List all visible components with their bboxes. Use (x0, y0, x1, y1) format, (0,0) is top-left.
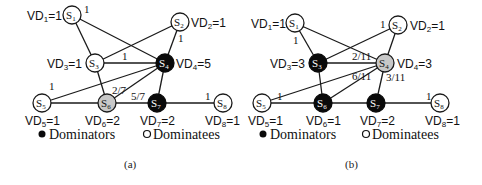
vd-label-s2: VD2=1 (410, 19, 445, 34)
weight-s1-s3: 1 (293, 34, 299, 46)
vd-label-s3: VD3=3 (270, 57, 305, 72)
weight-s4-s7: 3/11 (386, 71, 405, 83)
vd-label-s3: VD3=1 (47, 57, 82, 72)
node-s6-a: S6 (98, 94, 116, 112)
vd-label-s2: VD2=1 (191, 16, 226, 31)
weight-s2-s3: 1 (380, 18, 386, 30)
weight-s7-s8: 1 (205, 90, 211, 102)
legend-b: Dominators Dominatees (260, 127, 439, 142)
caption-a: (a) (124, 158, 137, 171)
legend-dominatees: Dominatees (372, 127, 439, 142)
node-s2-b: S2 (389, 16, 407, 34)
node-s4-b: S4 (376, 54, 394, 72)
weight-s4-s5: 6/11 (352, 70, 371, 82)
legend-dominators: Dominators (49, 127, 115, 142)
node-s5-a: S5 (33, 94, 51, 112)
dominatee-legend-icon (363, 131, 370, 138)
weight-s4-s6: 2/7 (112, 84, 127, 96)
node-s3-a: S3 (86, 54, 104, 72)
legend-dominators: Dominators (270, 127, 336, 142)
edge-s1-s4 (295, 23, 385, 63)
weight-s4-s7: 5/7 (131, 90, 146, 102)
panel-a: 1 1 1 1 2/7 5/7 1 S1 S2 S3 S4 S5 (25, 3, 240, 171)
weight-s3-s4: 1 (122, 50, 128, 62)
weight-s3-s4: 2/11 (352, 50, 371, 62)
weight-s1-s4: 1 (84, 3, 90, 15)
weight-s5-s6: 1 (277, 90, 283, 102)
caption-b: (b) (345, 158, 358, 171)
vd-labels-a: VD1=1 VD2=1 VD3=1 VD4=5 VD5=1 VD6=2 VD7=… (25, 9, 240, 129)
weight-s7-s8: 1 (426, 90, 432, 102)
dominator-legend-icon (260, 131, 267, 138)
node-s4-a: S4 (156, 54, 174, 72)
node-s8-b: S8 (431, 94, 449, 112)
vd-label-s4: VD4=3 (397, 57, 432, 72)
node-s8-a: S8 (214, 94, 232, 112)
dominatee-legend-icon (144, 131, 151, 138)
legend-dominatees: Dominatees (153, 127, 220, 142)
node-s7-a: S7 (148, 94, 166, 112)
node-s5-b: S5 (253, 94, 271, 112)
weight-s4-s5: 1 (49, 80, 55, 92)
node-s1-b: S1 (286, 14, 304, 32)
vd-label-s4: VD4=5 (176, 57, 211, 72)
legend-a: Dominators Dominatees (39, 127, 220, 142)
vd-label-s1: VD1=1 (27, 9, 62, 24)
dominator-diagram: 1 1 1 1 2/7 5/7 1 S1 S2 S3 S4 S5 (0, 0, 482, 185)
weight-s2-s4: 1 (178, 32, 184, 44)
node-s6-b: S6 (314, 94, 332, 112)
edge-s1-s4 (72, 15, 165, 63)
node-s3-b: S3 (309, 54, 327, 72)
node-s2-a: S2 (171, 13, 189, 31)
dominator-legend-icon (39, 131, 46, 138)
panel-b: 1 1 2/11 6/11 3/11 1 1 S1 S2 S3 S4 S5 (248, 14, 460, 171)
vd-label-s1: VD1=1 (251, 17, 286, 32)
node-s7-b: S7 (367, 94, 385, 112)
node-s1-a: S1 (63, 6, 81, 24)
